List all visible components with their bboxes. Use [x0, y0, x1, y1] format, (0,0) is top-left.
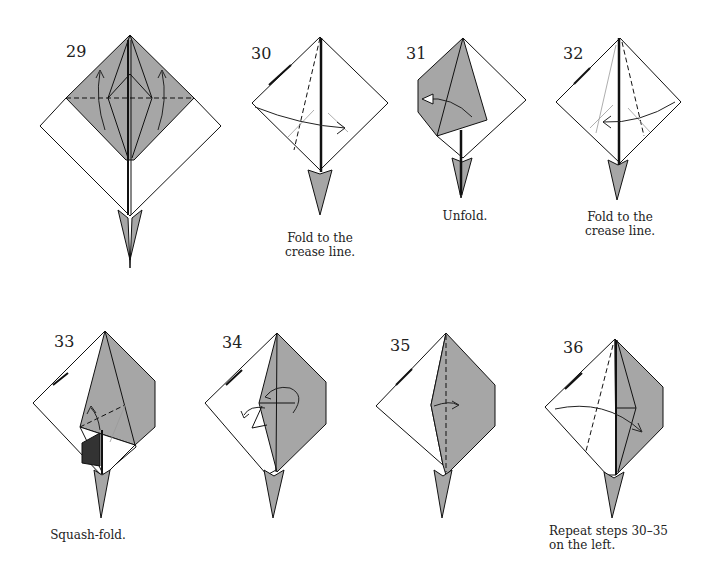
- step-36-diagram: [0, 0, 716, 571]
- step-caption: Repeat steps 30–35 on the left.: [549, 524, 689, 552]
